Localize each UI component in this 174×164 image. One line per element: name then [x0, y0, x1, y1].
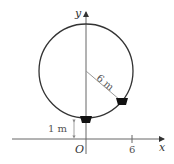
car-bottom	[80, 116, 92, 123]
x-tick-label: 6	[129, 144, 135, 155]
x-axis-label: x	[159, 141, 166, 154]
radius-label: 6 m	[94, 72, 116, 93]
height-label: 1 m	[48, 123, 68, 134]
y-axis-label: y	[74, 7, 82, 20]
car-side	[116, 98, 128, 105]
origin-label: O	[75, 143, 84, 156]
diagram-canvas: 1 m 6 m O 6 x y	[0, 0, 174, 164]
ferris-wheel-diagram: 1 m 6 m O 6 x y	[0, 0, 174, 164]
